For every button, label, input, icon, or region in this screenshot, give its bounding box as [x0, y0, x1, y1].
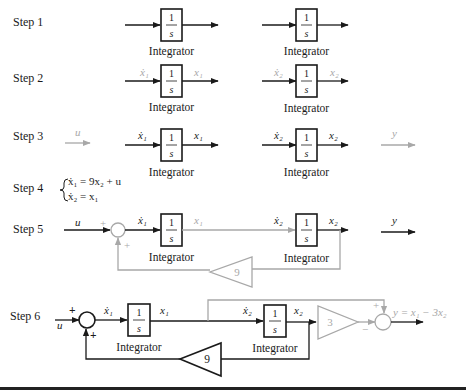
integrator-label: Integrator — [149, 166, 195, 179]
signal-x2dot: ẋ₂ — [273, 214, 283, 226]
sum-sign-plus-top: + — [100, 217, 106, 229]
step-label: Step 1 — [13, 15, 43, 29]
signal-u: u — [57, 319, 63, 331]
svg-text:1: 1 — [304, 132, 309, 143]
svg-text:1: 1 — [304, 68, 309, 79]
signal-x1dot: ẋ₁ — [137, 214, 147, 226]
signal-x1: x₁ — [159, 304, 169, 316]
integrator-label: Integrator — [149, 45, 195, 58]
sum1-sign-plus-bottom: + — [90, 329, 97, 341]
gain-block-9 — [180, 343, 221, 376]
summing-junction-2 — [375, 314, 391, 330]
integrator-label: Integrator — [284, 166, 330, 179]
svg-text:1: 1 — [169, 132, 174, 143]
signal-x2dot: ẋ₂ — [273, 66, 283, 78]
step-label: Step 6 — [10, 309, 40, 323]
step-label: Step 3 — [13, 129, 43, 143]
signal-x2dot: ẋ₂ — [273, 129, 283, 141]
svg-text:1: 1 — [304, 12, 309, 23]
signal-x2: x₂ — [329, 66, 339, 78]
gain-value: 9 — [234, 266, 240, 278]
signal-x1dot: ẋ₁ — [139, 66, 149, 78]
gain-output-value: 3 — [327, 316, 333, 328]
svg-text:s: s — [137, 323, 141, 334]
svg-text:s: s — [170, 84, 174, 95]
signal-x1: x₁ — [193, 66, 203, 78]
integrator-label: Integrator — [284, 252, 330, 265]
equation-1: ẋ₁ = 9x₂ + u — [68, 175, 122, 187]
signal-x2dot: ẋ₂ — [242, 304, 252, 316]
integrator-block-2: 1 s — [296, 214, 317, 246]
signal-x1: x₁ — [193, 214, 203, 226]
svg-text:1: 1 — [169, 68, 174, 79]
brace — [60, 179, 68, 201]
output-expression: y = x₁ − 3x₂ — [392, 306, 447, 318]
svg-text:s: s — [305, 233, 309, 244]
signal-x2: x₂ — [293, 304, 303, 316]
svg-text:1: 1 — [169, 12, 174, 23]
signal-x1dot: ẋ₁ — [137, 129, 147, 141]
integrator-label: Integrator — [149, 251, 195, 264]
svg-text:s: s — [305, 84, 309, 95]
signal-x2: x₂ — [328, 214, 338, 226]
integrator-block-2: 1 s — [296, 65, 317, 97]
step-1: Step 1 1 s Integrator 1 s Integrator — [13, 9, 348, 58]
integrator-label: Integrator — [252, 342, 298, 355]
step-4: Step 4 ẋ₁ = 9x₂ + u ẋ₂ = x₁ — [13, 175, 122, 202]
step-5: Step 5 u + + ẋ₁ 1 s x₁ ẋ₂ Integrator 1 s… — [13, 214, 415, 287]
summing-junction — [111, 223, 125, 237]
integrator-block-1: 1 s — [161, 65, 182, 97]
svg-text:s: s — [305, 28, 309, 39]
integrator-block-2: 1 s — [264, 305, 286, 337]
integrator-label: Integrator — [284, 45, 330, 58]
integrator-block-1: 1 s — [161, 214, 182, 246]
step-label: Step 5 — [13, 222, 43, 236]
svg-text:s: s — [170, 28, 174, 39]
signal-x1dot: ẋ₁ — [103, 304, 113, 316]
integrator-block-2: 1 s — [296, 9, 317, 41]
gain-block-9 — [210, 257, 252, 287]
step-label: Step 4 — [13, 181, 43, 195]
svg-text:1: 1 — [169, 217, 174, 228]
signal-u: u — [75, 216, 81, 228]
gain-feedback-value: 9 — [204, 353, 210, 365]
block-diagram-figure: Step 1 1 s Integrator 1 s Integrator Ste… — [0, 0, 466, 390]
svg-text:s: s — [305, 148, 309, 159]
integrator-block-1: 1 s — [128, 304, 150, 336]
integrator-block-1: 1 s — [161, 9, 182, 41]
svg-text:s: s — [170, 233, 174, 244]
signal-u: u — [75, 126, 81, 138]
step-2: Step 2 ẋ₁ 1 s x₁ Integrator ẋ₂ 1 s x₂ In… — [13, 65, 348, 115]
integrator-label: Integrator — [284, 102, 330, 115]
step-3: Step 3 u ẋ₁ 1 s x₁ Integrator ẋ₂ 1 s x₂ … — [13, 126, 415, 179]
integrator-label: Integrator — [149, 101, 195, 114]
integrator-block-2: 1 s — [296, 129, 317, 161]
sum-sign-plus-bottom: + — [124, 239, 130, 251]
integrator-block-1: 1 s — [161, 129, 182, 161]
svg-text:1: 1 — [304, 217, 309, 228]
svg-text:s: s — [170, 148, 174, 159]
svg-text:s: s — [273, 324, 277, 335]
sum2-sign-minus: − — [362, 323, 368, 335]
signal-x2: x₂ — [328, 129, 338, 141]
equation-2: ẋ₂ = x₁ — [68, 190, 99, 202]
sum1-sign-plus-left: + — [69, 304, 76, 316]
signal-y: y — [391, 127, 397, 139]
step-6: Step 6 + u + ẋ₁ 1 s Integrator x₁ ẋ₂ 1 s… — [10, 299, 447, 376]
svg-text:1: 1 — [273, 308, 278, 319]
signal-x1: x₁ — [193, 129, 203, 141]
svg-text:1: 1 — [137, 307, 142, 318]
step-label: Step 2 — [13, 71, 43, 85]
signal-y: y — [391, 214, 397, 226]
gain-block-3 — [318, 306, 358, 339]
sum2-sign-plus: + — [373, 299, 379, 311]
summing-junction-1 — [79, 312, 95, 328]
integrator-label: Integrator — [116, 341, 162, 354]
